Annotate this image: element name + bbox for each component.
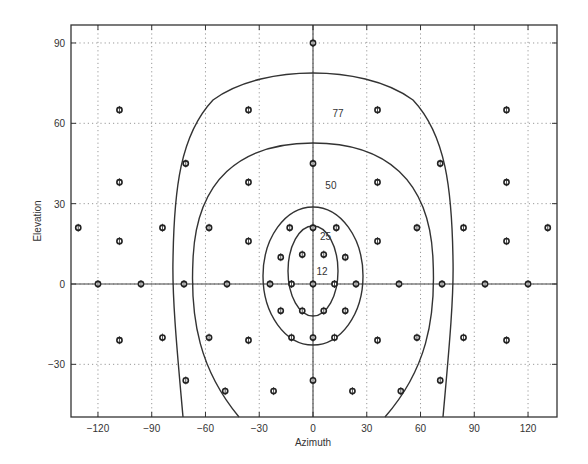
contour-label-25: 25	[320, 231, 332, 242]
x-tick-label: 120	[520, 423, 537, 434]
x-tick-label: 30	[361, 423, 373, 434]
contour-labels: 12255077	[316, 108, 344, 277]
x-tick-label: 0	[310, 423, 316, 434]
x-tick-label: −90	[143, 423, 160, 434]
plot-frame	[71, 25, 557, 417]
x-axis-label: Azimuth	[295, 437, 331, 448]
y-tick-label: 0	[59, 279, 65, 290]
y-tick-label: 30	[54, 199, 66, 210]
x-tick-label: −60	[197, 423, 214, 434]
y-tick-label: −30	[48, 359, 65, 370]
y-tick-label: 60	[54, 118, 66, 129]
contour-label-12: 12	[316, 266, 328, 277]
y-tick-label: 90	[54, 38, 66, 49]
grid-lines	[71, 25, 557, 417]
x-tick-label: 60	[415, 423, 427, 434]
contour-scatter-chart: 12255077 −120−90−60−300306090120−3003060…	[0, 0, 588, 464]
x-tick-label: −120	[87, 423, 110, 434]
contour-label-77: 77	[333, 108, 345, 119]
reference-axes	[71, 25, 557, 417]
x-tick-label: 90	[469, 423, 481, 434]
contour-label-50: 50	[325, 180, 337, 191]
y-axis-label: Elevation	[32, 200, 43, 241]
x-tick-label: −30	[251, 423, 268, 434]
